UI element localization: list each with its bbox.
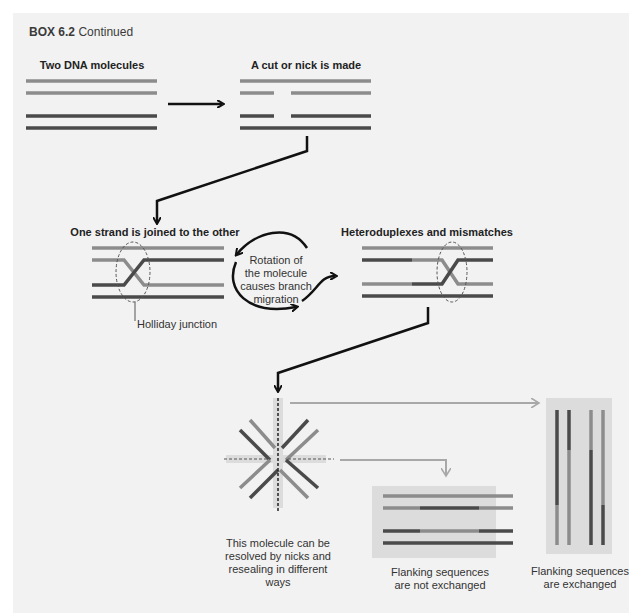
two-dna-molecules	[26, 81, 157, 128]
arrow-down-icon	[157, 136, 307, 222]
caption-line: are exchanged	[520, 578, 638, 591]
caption-line: Flanking sequences	[520, 565, 638, 578]
title-cut-or-nick: A cut or nick is made	[251, 59, 361, 71]
caption-line: are not exchanged	[380, 579, 500, 592]
not-exchanged-result	[372, 486, 513, 558]
caption-line: resealing in different	[213, 563, 343, 576]
caption-line: Flanking sequences	[380, 566, 500, 579]
svg-text:migration: migration	[253, 293, 298, 305]
rotation-text: Rotation of the molecule causes branch m…	[240, 254, 312, 305]
title-two-dna-molecules: Two DNA molecules	[40, 59, 145, 71]
resolution-cross	[224, 398, 334, 512]
resolution-caption: This molecule can be resolved by nicks a…	[213, 537, 343, 589]
arrow-down-icon-2	[278, 307, 428, 390]
svg-text:Rotation of: Rotation of	[249, 254, 303, 266]
exchanged-caption: Flanking sequences are exchanged	[520, 565, 638, 591]
title-heteroduplexes: Heteroduplexes and mismatches	[341, 226, 513, 238]
title-strand-joined: One strand is joined to the other	[70, 226, 240, 238]
nicked-molecules	[240, 81, 371, 128]
exchanged-result	[546, 398, 612, 554]
not-exchanged-caption: Flanking sequences are not exchanged	[380, 566, 500, 592]
holliday-junction-molecules	[92, 248, 224, 297]
svg-text:causes branch: causes branch	[240, 280, 312, 292]
caption-line: ways	[213, 576, 343, 589]
caption-line: This molecule can be	[213, 537, 343, 550]
caption-line: resolved by nicks and	[213, 550, 343, 563]
gray-arrow-not-exchanged-icon	[340, 460, 446, 475]
rotation-arrow-icon	[237, 233, 307, 254]
svg-text:the molecule: the molecule	[245, 267, 307, 279]
holliday-junction-label: Holliday junction	[137, 318, 217, 330]
heteroduplex-molecules	[362, 248, 493, 296]
